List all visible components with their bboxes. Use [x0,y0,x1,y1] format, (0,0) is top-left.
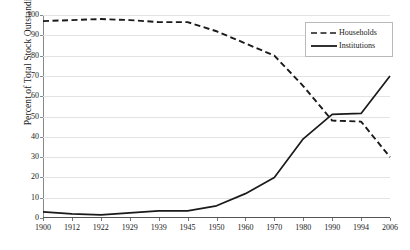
x-tick-mark [361,218,362,221]
x-tick-label: 1939 [151,224,167,232]
x-tick-label: 1960 [237,224,253,232]
x-tick-mark [188,218,189,221]
y-tick-label: 70 [31,72,39,80]
x-tick-mark [130,218,131,221]
y-tick-label: 100 [27,11,39,19]
y-tick-label: 60 [31,92,39,100]
legend-item-institutions: Institutions [310,39,388,52]
chart-legend: Households Institutions [305,22,393,57]
x-tick-label: 1980 [295,224,311,232]
x-tick-mark [245,218,246,221]
x-tick-label: 2006 [382,224,398,232]
line-chart: Percent of Total Stock Outstanding 01020… [0,0,410,250]
dashed-line-icon [310,28,338,38]
x-tick-mark [72,218,73,221]
y-tick-label: 10 [31,194,39,202]
series-line-institutions [43,76,390,215]
y-tick-label: 20 [31,173,39,181]
x-tick-label: 1900 [35,224,51,232]
x-tick-label: 1970 [266,224,282,232]
y-tick-label: 40 [31,133,39,141]
x-tick-mark [274,218,275,221]
x-tick-mark [43,218,44,221]
x-tick-label: 1922 [93,224,109,232]
legend-label-households: Households [338,28,377,37]
x-tick-label: 1950 [209,224,225,232]
y-tick-label: 30 [31,153,39,161]
x-tick-mark [332,218,333,221]
legend-label-institutions: Institutions [338,41,375,50]
y-tick-label: 0 [35,214,39,222]
y-tick-label: 50 [31,113,39,121]
x-tick-mark [217,218,218,221]
y-tick-label: 90 [31,31,39,39]
solid-line-icon [310,41,338,51]
x-tick-mark [390,218,391,221]
x-tick-label: 1912 [64,224,80,232]
x-tick-mark [303,218,304,221]
x-tick-label: 1945 [180,224,196,232]
y-tick-label: 80 [31,52,39,60]
x-tick-mark [101,218,102,221]
legend-item-households: Households [310,26,388,39]
x-tick-label: 1990 [324,224,340,232]
x-tick-mark [159,218,160,221]
x-tick-label: 1994 [353,224,369,232]
x-tick-label: 1929 [122,224,138,232]
